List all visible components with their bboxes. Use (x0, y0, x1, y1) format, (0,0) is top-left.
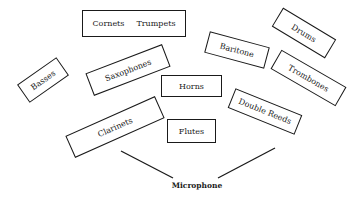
left-pickup-line (121, 151, 173, 178)
microphone-label: Microphone (170, 181, 224, 190)
section-horns: Horns (161, 75, 222, 97)
section-flutes: Flutes (167, 119, 216, 143)
trumpets-label: Trumpets (136, 19, 175, 28)
cornets-label: Cornets (92, 19, 124, 28)
horns-label: Horns (179, 82, 204, 91)
baritone-label: Baritone (219, 41, 255, 59)
section-cornets-trumpets: Cornets Trumpets (82, 10, 186, 37)
right-pickup-line (218, 148, 275, 178)
flutes-label: Flutes (179, 127, 204, 136)
